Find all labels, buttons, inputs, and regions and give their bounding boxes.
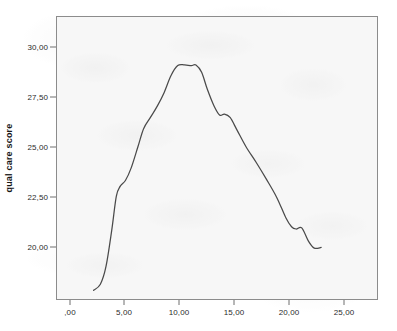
x-axis-ticks (70, 300, 344, 305)
y-tick-label-25: 25,00 (20, 143, 48, 152)
plot-area (56, 16, 378, 300)
plot-area-texture (57, 17, 377, 299)
y-tick-label-30: 30,00 (20, 43, 48, 52)
y-tick-label-22-5: 22,50 (20, 193, 48, 202)
x-tick-label-5: 5,00 (116, 308, 132, 317)
y-tick-label-27-5: 27,50 (20, 93, 48, 102)
y-axis-title: qual care score (4, 123, 14, 192)
x-tick-label-15: 15,00 (224, 308, 245, 317)
x-tick-label-10: 10,00 (169, 308, 190, 317)
x-tick-label-0: ,00 (64, 308, 75, 317)
y-tick-label-20: 20,00 (20, 243, 48, 252)
x-tick-label-25: 25,00 (334, 308, 355, 317)
x-tick-label-20: 20,00 (279, 308, 300, 317)
chart-figure: qual care score 30,00 27,50 25,00 22,50 … (0, 0, 397, 331)
